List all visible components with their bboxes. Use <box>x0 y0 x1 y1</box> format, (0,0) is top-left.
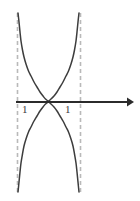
curve-lower-branch <box>18 102 79 192</box>
plot-canvas <box>0 0 140 201</box>
x-axis-group <box>16 98 134 107</box>
curve-upper-branch <box>18 13 79 101</box>
tick-label-right: 1 <box>65 104 71 115</box>
tick-label-left: 1 <box>22 104 28 115</box>
x-axis-arrow <box>127 98 134 107</box>
graph-figure: 1 1 <box>0 0 140 201</box>
